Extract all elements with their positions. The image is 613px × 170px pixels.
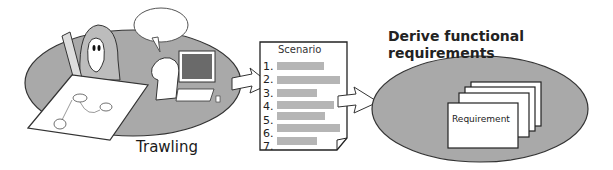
requirement-card-label: Requirement: [452, 114, 510, 124]
step-number: 4.: [263, 100, 274, 113]
derive-title-line2: requirements: [388, 45, 524, 62]
trawling-label: Trawling: [136, 138, 198, 156]
diagram-canvas: [0, 0, 613, 170]
speech-bubble: [134, 8, 188, 42]
step-number: 6.: [263, 127, 274, 140]
step-number: 3.: [263, 87, 274, 100]
step-number: 2.: [263, 73, 274, 86]
step-number: 7.: [263, 140, 274, 153]
scenario-steps: 1. 2. 3. 4. 5. 6. 7.: [263, 60, 274, 154]
step-number: 1.: [263, 60, 274, 73]
derive-title: Derive functional requirements: [388, 28, 524, 62]
step-number: 5.: [263, 114, 274, 127]
derive-title-line1: Derive functional: [388, 28, 524, 45]
scenario-title: Scenario: [278, 44, 321, 55]
